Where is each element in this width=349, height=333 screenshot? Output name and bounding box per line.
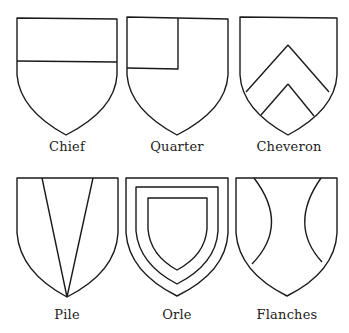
shield-chief	[17, 18, 117, 135]
label-quarter: Quarter	[127, 139, 227, 154]
shield-cheveron	[240, 17, 337, 135]
shield-pile	[17, 178, 118, 297]
label-flanches: Flanches	[237, 307, 337, 322]
label-chief: Chief	[17, 139, 117, 154]
shield-flanches	[236, 178, 337, 296]
shield-orle	[126, 178, 228, 296]
label-cheveron: Cheveron	[239, 139, 339, 154]
label-pile: Pile	[17, 307, 117, 322]
label-orle: Orle	[127, 307, 227, 322]
heraldry-ordinaries-diagram	[0, 0, 349, 333]
shield-quarter	[127, 17, 228, 135]
